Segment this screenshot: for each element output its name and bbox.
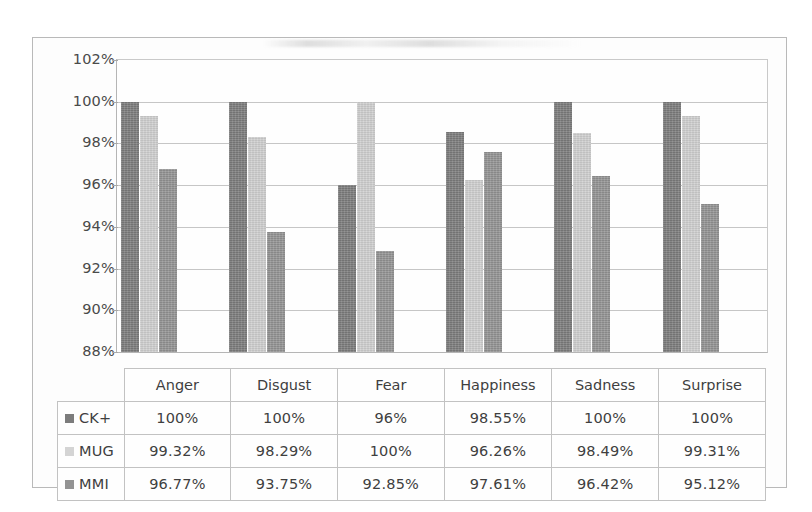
figure-frame: 102%100%98%96%94%92%90%88% AngerDisgustF… (32, 37, 787, 488)
bar-group-sadness (550, 60, 658, 352)
table-corner-cell (58, 369, 125, 402)
cell-mmi-fear: 92.85% (337, 468, 444, 501)
bar-anger-ck-plus (121, 102, 139, 352)
cell-ck-plus-fear: 96% (337, 402, 444, 435)
bar-group-surprise (659, 60, 767, 352)
y-axis-tick-label: 100% (39, 94, 115, 108)
y-axis-tick-label: 90% (39, 302, 115, 316)
cell-mmi-anger: 96.77% (124, 468, 231, 501)
y-axis-tick-label: 94% (39, 219, 115, 233)
cell-ck-plus-surprise: 100% (659, 402, 766, 435)
series-legend-cell: CK+ (58, 402, 125, 435)
bars-layer (117, 60, 767, 352)
series-name-label: MMI (79, 476, 109, 492)
bar-disgust-mug (248, 137, 266, 352)
bar-fear-ck-plus (338, 185, 356, 352)
series-marker-mmi-icon (65, 480, 74, 489)
y-axis-tick-label: 88% (39, 344, 115, 358)
cell-ck-plus-sadness: 100% (552, 402, 659, 435)
cell-mmi-disgust: 93.75% (231, 468, 338, 501)
cell-mug-sadness: 98.49% (552, 435, 659, 468)
y-axis-tick-label: 96% (39, 177, 115, 191)
table-row: MUG99.32%98.29%100%96.26%98.49%99.31% (58, 435, 766, 468)
cell-mug-happiness: 96.26% (444, 435, 552, 468)
bar-surprise-mug (682, 116, 700, 352)
y-axis: 102%100%98%96%94%92%90%88% (39, 48, 115, 351)
bar-surprise-mmi (701, 204, 719, 353)
series-marker-mug-icon (65, 447, 74, 456)
cell-mmi-sadness: 96.42% (552, 468, 659, 501)
bar-sadness-mmi (592, 176, 610, 352)
y-axis-tick-label: 98% (39, 135, 115, 149)
column-header-disgust: Disgust (231, 369, 338, 402)
data-table: AngerDisgustFearHappinessSadnessSurprise… (57, 368, 766, 501)
table-header-row: AngerDisgustFearHappinessSadnessSurprise (58, 369, 766, 402)
bar-disgust-mmi (267, 232, 285, 352)
cell-mug-anger: 99.32% (124, 435, 231, 468)
table-row: MMI96.77%93.75%92.85%97.61%96.42%95.12% (58, 468, 766, 501)
bar-anger-mug (140, 116, 158, 352)
bar-sadness-ck-plus (554, 102, 572, 352)
series-legend-cell: MUG (58, 435, 125, 468)
series-legend-cell: MMI (58, 468, 125, 501)
cell-ck-plus-disgust: 100% (231, 402, 338, 435)
bar-happiness-mmi (484, 152, 502, 352)
cell-mug-surprise: 99.31% (659, 435, 766, 468)
series-marker-ck-plus-icon (65, 414, 74, 423)
column-header-surprise: Surprise (659, 369, 766, 402)
bar-sadness-mug (573, 133, 591, 352)
bar-group-disgust (225, 60, 333, 352)
series-name-label: MUG (79, 443, 114, 459)
y-axis-tick-label: 102% (39, 52, 115, 66)
bar-happiness-mug (465, 180, 483, 352)
bar-happiness-ck-plus (446, 132, 464, 352)
series-name-label: CK+ (79, 410, 111, 426)
cell-mmi-surprise: 95.12% (659, 468, 766, 501)
bar-anger-mmi (159, 169, 177, 352)
bar-fear-mug (357, 102, 375, 352)
table-body: CK+100%100%96%98.55%100%100%MUG99.32%98.… (58, 402, 766, 501)
cell-ck-plus-anger: 100% (124, 402, 231, 435)
table-row: CK+100%100%96%98.55%100%100% (58, 402, 766, 435)
y-axis-tick (112, 352, 118, 353)
chart-plot-region: 102%100%98%96%94%92%90%88% (33, 38, 788, 368)
bar-group-anger (117, 60, 225, 352)
cell-mug-fear: 100% (337, 435, 444, 468)
bar-disgust-ck-plus (229, 102, 247, 352)
column-header-happiness: Happiness (444, 369, 552, 402)
cell-ck-plus-happiness: 98.55% (444, 402, 552, 435)
bar-fear-mmi (376, 251, 394, 352)
y-axis-tick-label: 92% (39, 261, 115, 275)
cell-mmi-happiness: 97.61% (444, 468, 552, 501)
column-header-sadness: Sadness (552, 369, 659, 402)
column-header-anger: Anger (124, 369, 231, 402)
plot-area (116, 59, 768, 353)
bar-group-fear (334, 60, 442, 352)
bar-surprise-ck-plus (663, 102, 681, 352)
cell-mug-disgust: 98.29% (231, 435, 338, 468)
bar-group-happiness (442, 60, 550, 352)
column-header-fear: Fear (337, 369, 444, 402)
